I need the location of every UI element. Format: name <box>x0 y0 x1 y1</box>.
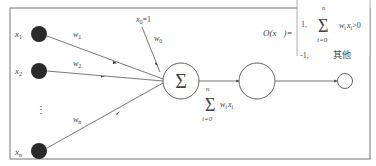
input-node-1 <box>31 26 47 42</box>
formula-case1-cond: wixi>0 <box>339 21 361 31</box>
sum-expr-bottom: i=0 <box>202 115 213 123</box>
sum-expr-term: wixi <box>220 100 234 110</box>
input-label-n: xn <box>14 147 22 158</box>
bias-weight-label: w0 <box>154 34 162 44</box>
formula-case1-value: 1, <box>301 20 307 29</box>
formula-case1-bottom: i=0 <box>317 36 328 44</box>
formula-case1-top: n <box>322 4 326 12</box>
formula-case2-cond: 其他 <box>333 49 351 60</box>
formula-lhs: O(x⃗)= <box>263 28 293 38</box>
input-label-1: x1 <box>14 29 22 40</box>
output-node <box>338 74 353 89</box>
ellipsis: ⋮ <box>36 104 46 115</box>
activation-node <box>239 63 275 99</box>
sum-expr-top: n <box>206 85 210 93</box>
weight-label-1: w1 <box>73 30 81 40</box>
weight-label-n: wn <box>73 115 81 125</box>
formula-case2-value: -1, <box>300 51 309 60</box>
edge-wn <box>47 83 163 148</box>
input-node-n <box>31 143 47 159</box>
input-node-2 <box>31 63 47 79</box>
sigma-symbol: Σ <box>175 70 187 92</box>
sum-expr-sigma: Σ <box>205 95 215 115</box>
bias-label: x0=1 <box>135 15 151 25</box>
formula-case1-sigma: Σ <box>318 16 328 36</box>
perceptron-diagram: x1 x2 xn ⋮ w1 w2 wn x0=1 w0 Σ n Σ i=0 wi… <box>0 0 376 166</box>
input-label-2: x2 <box>14 66 22 77</box>
weight-label-2: w2 <box>73 59 81 69</box>
